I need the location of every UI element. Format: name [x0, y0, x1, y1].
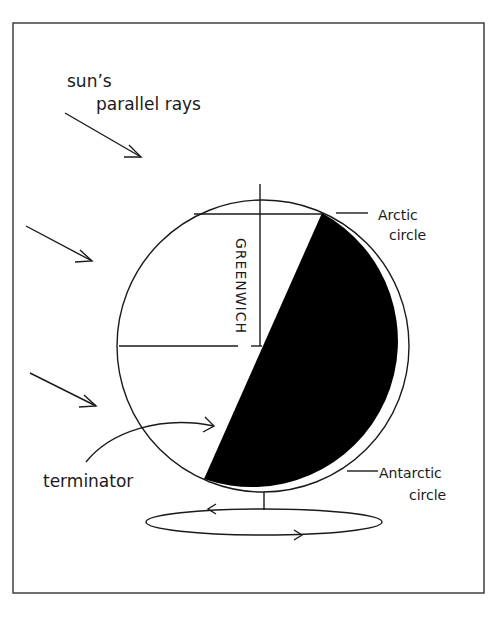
rotation-arrow-back — [208, 504, 216, 514]
sun-label-line1: sun’s — [67, 71, 112, 91]
antarctic-label-line2: circle — [409, 487, 446, 503]
earth-terminator-diagram: sun’s parallel rays Arctic circle GREENW… — [0, 0, 496, 632]
antarctic-label-line1: Antarctic — [379, 465, 442, 481]
greenwich-meridian-label: GREENWICH — [233, 238, 249, 334]
sun-ray-arrow-1 — [65, 113, 141, 157]
arctic-label-line2: circle — [389, 227, 426, 243]
arctic-label-line1: Arctic — [378, 207, 418, 223]
terminator-label: terminator — [43, 471, 133, 491]
sun-ray-arrow-3 — [30, 373, 96, 407]
rotation-ellipse — [146, 509, 382, 535]
sun-ray-arrow-2 — [26, 226, 92, 262]
sun-label-line2: parallel rays — [96, 94, 201, 114]
